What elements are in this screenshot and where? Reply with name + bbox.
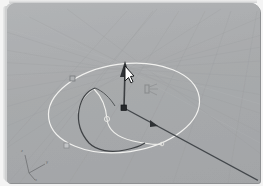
- axis-label-x: x: [35, 178, 37, 182]
- cursor-arrow-glyph: [125, 66, 134, 83]
- gizmo-hint-tick-lower: [149, 91, 157, 95]
- control-point-upper-left: [70, 76, 75, 81]
- axis-label-z: z: [21, 149, 23, 153]
- surface-isocurve[interactable]: [78, 89, 162, 144]
- mouse-cursor: [123, 65, 135, 85]
- control-point-origin: [121, 105, 127, 111]
- perspective-grid-cross: [7, 9, 260, 183]
- perspective-viewport[interactable]: z y x: [7, 3, 260, 183]
- gizmo-hint-box: [145, 85, 149, 93]
- gizmo-hint-tick-upper: [149, 84, 157, 87]
- axis-label-y: y: [46, 160, 48, 164]
- revolve-axis-line[interactable]: [124, 108, 260, 182]
- transform-gizmo-hint: [144, 83, 160, 97]
- axis-arrowhead: [150, 120, 158, 127]
- application-window: z y x: [0, 0, 263, 186]
- viewport-canvas[interactable]: [7, 3, 260, 183]
- control-point-lower-left: [64, 143, 69, 148]
